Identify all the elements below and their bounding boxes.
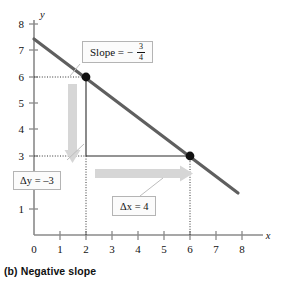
x-tick-label-2: 2 [83,243,89,255]
x-tick-label-5: 5 [161,243,167,255]
y-tick-label-7: 7 [19,44,25,56]
delta-x-arrow [95,166,193,182]
x-tick-label-7: 7 [213,243,219,255]
y-axis-label: y [39,9,45,20]
x-tick-label-4: 4 [135,243,141,255]
x-tick-label-6: 6 [187,243,193,255]
delta-x-leader [140,178,163,196]
y-tick-label-8: 8 [19,18,25,30]
slope-numerator: 3 [137,43,145,52]
y-tick-label-1: 1 [19,203,25,215]
x-axis-label: x [265,230,271,241]
figure-negative-slope: 1 2 3 4 5 6 7 8 0 1 2 3 4 5 6 7 8 y x [0,0,283,287]
x-tick-label-8: 8 [239,243,245,255]
slope-prefix: Slope = − [90,46,133,58]
figure-caption: (b) Negative slope [4,265,96,277]
slope-denominator: 4 [137,52,145,62]
slope-fraction: 34 [137,43,145,62]
x-tick-label-1: 1 [57,243,63,255]
delta-y-callout: Δy = –3 [13,171,61,190]
y-tick-label-6: 6 [19,71,25,83]
data-point-b [186,152,195,161]
data-point-a [82,73,91,82]
y-tick-label-3: 3 [19,150,25,162]
y-tick-label-5: 5 [19,97,25,109]
y-tick-label-4: 4 [19,123,25,135]
plot-area: 1 2 3 4 5 6 7 8 0 1 2 3 4 5 6 7 8 y x [0,0,283,262]
x-tick-label-0: 0 [31,243,37,255]
x-tick-label-3: 3 [109,243,115,255]
delta-x-callout: Δx = 4 [112,196,156,216]
slope-callout: Slope = −34 [82,41,153,63]
delta-y-arrow [65,84,81,163]
